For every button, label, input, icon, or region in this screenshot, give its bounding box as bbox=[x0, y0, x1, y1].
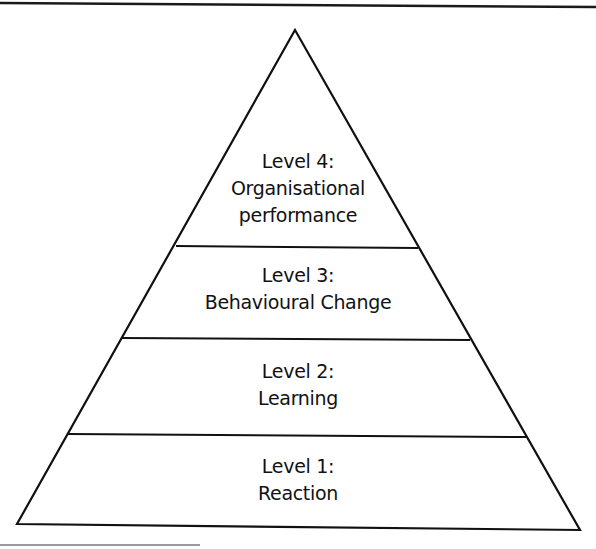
level-4-line-2: Organisational bbox=[0, 175, 596, 202]
level-1-title: Level 1: bbox=[0, 453, 596, 480]
level-3-title: Level 3: bbox=[0, 262, 596, 289]
level-2-line-2: Learning bbox=[0, 385, 596, 412]
top-border-line bbox=[0, 3, 596, 7]
level-1-line-2: Reaction bbox=[0, 480, 596, 507]
level-4-label: Level 4: Organisational performance bbox=[0, 148, 596, 229]
level-3-label: Level 3: Behavioural Change bbox=[0, 262, 596, 316]
divider-3-2 bbox=[122, 338, 470, 340]
level-2-label: Level 2: Learning bbox=[0, 358, 596, 412]
level-3-line-2: Behavioural Change bbox=[0, 289, 596, 316]
level-2-title: Level 2: bbox=[0, 358, 596, 385]
divider-2-1 bbox=[68, 434, 527, 437]
level-4-title: Level 4: bbox=[0, 148, 596, 175]
pyramid-diagram: Level 4: Organisational performance Leve… bbox=[0, 0, 596, 549]
level-4-line-3: performance bbox=[0, 202, 596, 229]
divider-4-3 bbox=[176, 246, 418, 248]
level-1-label: Level 1: Reaction bbox=[0, 453, 596, 507]
